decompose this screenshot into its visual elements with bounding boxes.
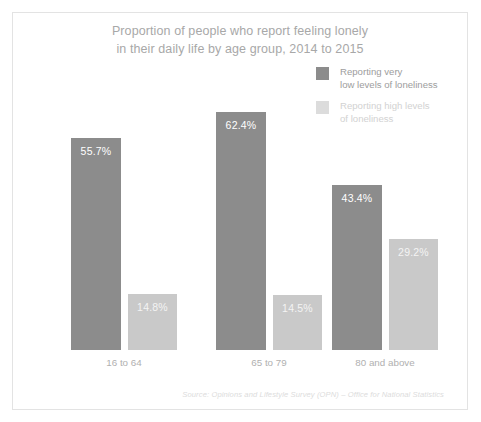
source-note: Source: Opinions and Lifestyle Survey (O…: [0, 390, 458, 399]
bar-16to64-high[interactable]: 14.8%: [128, 294, 177, 350]
bar-65to79-high[interactable]: 14.5%: [273, 295, 322, 350]
plot-area: 55.7% 14.8% 62.4% 14.5% 43.4% 29.2% 16 t…: [0, 0, 481, 422]
bar-value-16to64-low: 55.7%: [71, 145, 121, 157]
bar-80above-high[interactable]: 29.2%: [389, 239, 438, 350]
bar-80above-low[interactable]: 43.4%: [332, 185, 382, 350]
x-axis-label-16to64: 16 to 64: [71, 357, 177, 368]
bar-value-16to64-high: 14.8%: [128, 301, 177, 313]
bar-value-80above-low: 43.4%: [332, 192, 382, 204]
bar-value-80above-high: 29.2%: [389, 246, 438, 258]
bar-65to79-low[interactable]: 62.4%: [216, 112, 266, 350]
bar-value-65to79-low: 62.4%: [216, 119, 266, 131]
bar-16to64-low[interactable]: 55.7%: [71, 138, 121, 350]
x-axis-label-80above: 80 and above: [332, 357, 438, 368]
x-axis-label-65to79: 65 to 79: [216, 357, 322, 368]
chart-figure: Proportion of people who report feeling …: [0, 0, 481, 422]
bar-value-65to79-high: 14.5%: [273, 302, 322, 314]
